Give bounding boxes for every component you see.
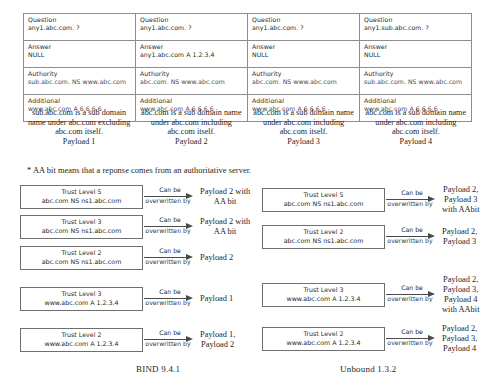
trust-level-box: Trust Level 5 abc.com NS ns1.abc.com (20, 185, 143, 208)
table-row-authority: Authority sub.abc.com. NS www.abc.com Au… (24, 68, 472, 95)
overwritten-by-arrow-icon: Can be overwritten by (144, 246, 196, 270)
field-label-authority: Authority (140, 70, 244, 78)
record-label: www.abc.com A 1.2.3.4 (266, 339, 381, 348)
trust-level-label: Trust Level 2 (266, 228, 381, 237)
trust-level-label: Trust Level 2 (24, 331, 139, 340)
rule-row: Trust Level 5 abc.com NS ns1.abc.com Can… (262, 185, 479, 215)
arrow-label-bottom: overwritten by (387, 295, 433, 302)
result-line: Payload 2, (442, 324, 477, 334)
payload-description: sub.abc.com is a sub domain name under a… (23, 108, 135, 146)
result-payloads: Payload 2 with AA bit (200, 217, 250, 237)
trust-level-box: Trust Level 3 abc.com NS ns1.abc.com (20, 215, 143, 238)
trust-level-label: Trust Level 2 (24, 249, 139, 258)
aa-bit-footnote: * AA bit means that a reponse comes from… (27, 166, 251, 175)
field-value-authority: abc.com. NS www.abc.com (140, 78, 244, 87)
field-value-authority: sub.abc.com. NS www.abc.com (28, 78, 132, 87)
result-line: Payload 3, (442, 285, 479, 295)
table-cell: Authority sub.abc.com. NS www.abc.com (24, 68, 136, 95)
result-line: Payload 2 with (200, 187, 250, 197)
arrow-label-bottom: overwritten by (145, 227, 191, 234)
payload-descriptions: sub.abc.com is a sub domain name under a… (23, 108, 472, 146)
record-label: abc.com NS ns1.abc.com (24, 227, 139, 236)
arrow-label-top: Can be (148, 247, 192, 254)
result-line: Payload 2, (442, 185, 479, 195)
result-line: Payload 2, (442, 275, 479, 285)
field-label-additional: Additional (140, 97, 244, 105)
table-cell: Answer any1.abc.com A 1.2.3.4 (136, 41, 248, 68)
arrow-label-bottom: overwritten by (387, 237, 433, 244)
payload-number: Payload 2 (137, 137, 245, 147)
field-value-authority: sub.abc.com. NS www.abc.com (364, 78, 468, 87)
result-line: Payload 4 (442, 344, 477, 354)
trust-level-label: Trust Level 3 (24, 218, 139, 227)
trust-level-box: Trust Level 2 www.abc.com A 1.2.3.4 (262, 327, 385, 350)
trust-level-label: Trust Level 3 (24, 290, 139, 299)
trust-level-label: Trust Level 2 (266, 330, 381, 339)
bind-rule-column: Trust Level 5 abc.com NS ns1.abc.com Can… (20, 183, 245, 358)
arrow-label-top: Can be (390, 284, 434, 291)
result-line: Payload 1 (200, 294, 233, 304)
trust-level-box: Trust Level 3 www.abc.com A 1.2.3.4 (20, 287, 143, 310)
overwritten-by-arrow-icon: Can be overwritten by (386, 283, 438, 307)
result-line: AA bit (200, 197, 250, 207)
result-line: Payload 3 (442, 237, 477, 247)
field-value-question: any1.abc.com. ? (28, 24, 132, 33)
unbound-rule-column: Trust Level 5 abc.com NS ns1.abc.com Can… (262, 183, 484, 358)
payload-description: abc.com is a sub domain name under abc.c… (360, 108, 472, 146)
payload-description: abc.com is a sub domain name under abc.c… (135, 108, 247, 146)
arrow-label-bottom: overwritten by (145, 340, 191, 347)
table-cell: Question any1.abc.com. ? (136, 14, 248, 41)
rule-row: Trust Level 3 abc.com NS ns1.abc.com Can… (20, 215, 250, 239)
field-value-question: any1.sub.abc.com. ? (364, 24, 468, 33)
result-line: Payload 2 (200, 253, 233, 263)
overwritten-by-arrow-icon: Can be overwritten by (144, 328, 196, 352)
field-value-answer: NULL (364, 51, 468, 60)
unbound-version-caption: Unbound 1.3.2 (340, 364, 396, 374)
field-value-answer: any1.abc.com A 1.2.3.4 (140, 51, 244, 60)
record-label: abc.com NS ns1.abc.com (266, 200, 381, 209)
overwritten-by-arrow-icon: Can be overwritten by (144, 185, 196, 209)
result-line: Payload 3, (442, 334, 477, 344)
field-value-authority: abc.com. NS www.abc.com (252, 78, 356, 87)
arrow-label-top: Can be (148, 288, 192, 295)
arrow-label-bottom: overwritten by (387, 339, 433, 346)
table-cell: Authority abc.com. NS www.abc.com (136, 68, 248, 95)
trust-level-label: Trust Level 5 (266, 191, 381, 200)
result-payloads: Payload 2, Payload 3, Payload 4 (442, 324, 477, 354)
table-cell: Answer NULL (24, 41, 136, 68)
result-payloads: Payload 2 with AA bit (200, 187, 250, 207)
result-line: Payload 3 (442, 195, 479, 205)
overwrite-rules-diagram: Trust Level 5 abc.com NS ns1.abc.com Can… (0, 183, 485, 358)
rule-row: Trust Level 3 www.abc.com A 1.2.3.4 Can … (20, 287, 233, 311)
result-payloads: Payload 2 (200, 253, 233, 263)
table-cell: Authority sub.abc.com. NS www.abc.com (360, 68, 472, 95)
trust-level-label: Trust Level 5 (24, 188, 139, 197)
payload-number: Payload 1 (25, 137, 133, 147)
arrow-label-bottom: overwritten by (145, 258, 191, 265)
arrow-label-top: Can be (390, 226, 434, 233)
table-cell: Question any1.abc.com. ? (24, 14, 136, 41)
result-line: Payload 4 (442, 295, 479, 305)
arrow-label-bottom: overwritten by (145, 197, 191, 204)
result-line: Payload 2 with (200, 217, 250, 227)
table-row-answer: Answer NULL Answer any1.abc.com A 1.2.3.… (24, 41, 472, 68)
trust-level-box: Trust Level 5 abc.com NS ns1.abc.com (262, 188, 385, 211)
table-row-question: Question any1.abc.com. ? Question any1.a… (24, 14, 472, 41)
field-label-additional: Additional (364, 97, 468, 105)
rule-row: Trust Level 5 abc.com NS ns1.abc.com Can… (20, 185, 250, 209)
result-payloads: Payload 2, Payload 3 with AAbit (442, 185, 479, 215)
overwritten-by-arrow-icon: Can be overwritten by (386, 225, 438, 249)
result-payloads: Payload 1 (200, 294, 233, 304)
overwritten-by-arrow-icon: Can be overwritten by (386, 188, 438, 212)
field-value-answer: NULL (252, 51, 356, 60)
result-line: with AAbit (442, 305, 479, 315)
record-label: www.abc.com A 1.2.3.4 (266, 295, 381, 304)
rule-row: Trust Level 3 www.abc.com A 1.2.3.4 Can … (262, 275, 479, 315)
arrow-label-top: Can be (390, 328, 434, 335)
record-label: abc.com NS ns1.abc.com (24, 258, 139, 267)
arrow-label-top: Can be (148, 186, 192, 193)
table-cell: Question any1.sub.abc.com. ? (360, 14, 472, 41)
trust-level-box: Trust Level 2 www.abc.com A 1.2.3.4 (20, 328, 143, 351)
record-label: www.abc.com A 1.2.3.4 (24, 340, 139, 349)
table-cell: Question any1.abc.com. ? (248, 14, 360, 41)
